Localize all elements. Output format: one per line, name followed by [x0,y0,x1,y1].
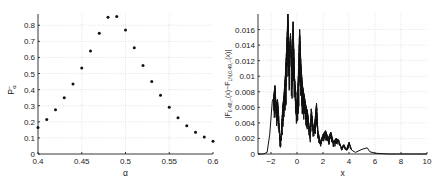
y-tick-label: 0.016 [235,26,256,35]
data-point [98,32,101,35]
data-point [63,96,66,99]
y-tick-label: 0.7 [24,37,36,46]
data-point [212,140,215,143]
data-point [177,116,180,119]
y-tick-label: 0.014 [235,41,256,50]
data-line [258,14,427,154]
data-point [194,131,197,134]
data-point [80,66,83,69]
y-axis-label: |F0.48,−(x)−FLN,0.49,−(x)| [224,50,233,119]
x-tick-label: 4 [347,157,352,166]
y-tick-label: 0.6 [24,53,36,62]
y-tick-label: 0 [251,150,256,159]
data-point [45,118,48,121]
x-tick-label: 0 [295,157,300,166]
x-tick-label: −2 [266,157,276,166]
line-chart-cdf-difference: −2024681000.0020.0040.0060.0080.010.0120… [222,0,444,180]
x-tick-label: 10 [423,157,432,166]
y-tick-label: 0 [31,150,36,159]
x-tick-label: 6 [373,157,378,166]
data-line-noise [274,14,352,151]
data-point [185,124,188,127]
y-tick-label: 0.012 [235,57,256,66]
scatter-chart-p-alpha: 0.40.450.50.550.600.10.20.30.40.50.60.70… [0,0,222,180]
y-tick-label: 0.2 [24,118,36,127]
y-tick-label: 0.8 [24,21,36,30]
x-tick-label: 0.6 [207,157,219,166]
y-tick-label: 0.5 [24,70,36,79]
x-tick-label: 2 [321,157,326,166]
y-tick-label: 0.002 [235,134,256,143]
y-tick-label: 0.4 [24,86,36,95]
x-tick-label: 0.55 [161,157,177,166]
x-tick-label: 0.5 [120,157,132,166]
x-axis-label: x [340,168,345,178]
y-tick-label: 0.3 [24,102,36,111]
data-point [37,126,40,129]
y-tick-label: 0.1 [24,134,36,143]
x-tick-label: 0.45 [74,157,90,166]
data-point [168,106,171,109]
x-axis-label: α [123,168,128,178]
data-point [115,15,118,18]
data-point [107,16,110,19]
data-point [150,80,153,83]
data-point [89,50,92,53]
y-tick-label: 0.008 [235,88,256,97]
data-point [124,29,127,32]
y-tick-label: 0.004 [235,119,256,128]
data-point [133,46,136,49]
data-point [54,108,57,111]
data-point [203,136,206,139]
figure: 0.40.450.50.550.600.10.20.30.40.50.60.70… [0,0,444,180]
x-tick-label: 8 [399,157,404,166]
y-tick-label: 0.01 [239,72,255,81]
y-tick-label: 0.006 [235,103,256,112]
y-axis-label: P−α [6,85,17,95]
data-point [159,94,162,97]
data-point [72,83,75,86]
data-point [142,64,145,67]
